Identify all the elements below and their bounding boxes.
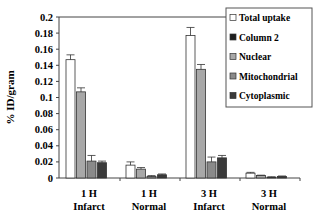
legend-item-label: Mitochondrial <box>239 72 298 82</box>
y-tick-label: 0.04 <box>35 140 54 151</box>
bar-cytoplasmic <box>98 163 107 178</box>
bar-mitochondrial <box>147 176 156 178</box>
legend-swatch <box>230 54 236 60</box>
legend-item-label: Nuclear <box>239 52 272 62</box>
y-tick-label: 0.12 <box>35 76 53 87</box>
y-tick-label: 0.2 <box>40 12 53 23</box>
bar-total-uptake <box>66 60 75 178</box>
legend-item-label: Cytoplasmic <box>239 91 290 101</box>
legend-swatch <box>230 73 236 79</box>
x-category-label: Normal <box>252 201 286 212</box>
bar-nuclear <box>137 169 146 178</box>
legend-item-label: Column 2 <box>239 33 279 43</box>
legend-swatch <box>230 93 236 99</box>
y-tick-label: 0.16 <box>35 44 53 55</box>
legend-swatch <box>230 34 236 40</box>
y-tick-label: 0.1 <box>40 92 53 103</box>
bar-total-uptake <box>246 173 255 178</box>
x-category-label: Infarct <box>73 201 105 212</box>
bar-cytoplasmic <box>278 176 287 178</box>
y-tick-label: 0.06 <box>35 124 53 135</box>
x-category-label: 1 H <box>81 188 97 199</box>
bar-mitochondrial <box>267 177 276 178</box>
bar-mitochondrial <box>87 161 96 178</box>
bar-chart: 00.020.040.060.080.10.120.140.160.180.2%… <box>0 0 313 219</box>
x-category-label: Infarct <box>193 201 225 212</box>
x-category-label: Normal <box>132 201 166 212</box>
bar-nuclear <box>197 69 206 178</box>
x-category-label: 3 H <box>261 188 277 199</box>
y-tick-label: 0.02 <box>35 156 53 167</box>
y-tick-label: 0 <box>48 173 53 184</box>
bar-nuclear <box>77 92 86 178</box>
x-category-label: 3 H <box>201 188 217 199</box>
y-tick-label: 0.18 <box>35 28 53 39</box>
y-axis-label: % ID/gram <box>4 70 16 124</box>
y-tick-label: 0.14 <box>35 60 54 71</box>
legend-swatch <box>230 15 236 21</box>
bar-nuclear <box>257 176 266 178</box>
bar-mitochondrial <box>207 162 216 178</box>
x-category-label: 1 H <box>141 188 157 199</box>
y-tick-label: 0.08 <box>35 108 53 119</box>
bar-cytoplasmic <box>158 175 167 178</box>
legend-item-label: Total uptake <box>239 13 290 23</box>
bar-total-uptake <box>126 165 135 178</box>
bar-total-uptake <box>186 36 195 178</box>
bar-cytoplasmic <box>218 158 227 178</box>
